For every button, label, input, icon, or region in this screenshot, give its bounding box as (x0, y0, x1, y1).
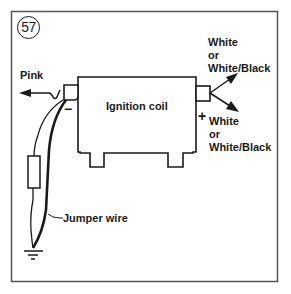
figure-number: 57 (17, 16, 40, 39)
ignition-coil-body (78, 77, 196, 167)
upper-wire-or: or (208, 48, 219, 62)
upper-right-wire (210, 79, 230, 93)
lower-right-wire (210, 93, 230, 106)
ignition-coil-label: Ignition coil (106, 99, 168, 113)
resistor-lead-lower (31, 188, 33, 248)
pink-wire-arrow-icon (19, 89, 31, 97)
lower-right-arrow-icon (226, 101, 239, 112)
upper-wire-color-1: White (208, 35, 238, 49)
ignition-coil-diagram: 57 Pink Ignition coil − + White or White… (0, 0, 291, 294)
ground-icon (24, 251, 43, 259)
lower-wire-color-2: White/Black (209, 140, 271, 154)
negative-terminal (64, 85, 78, 100)
pink-wire (30, 90, 60, 99)
lower-wire-or: or (209, 127, 220, 141)
upper-wire-color-2: White/Black (208, 61, 270, 75)
pink-wire-label: Pink (20, 68, 43, 82)
positive-sign: + (198, 108, 206, 124)
jumper-wire-label: Jumper wire (63, 211, 128, 225)
lower-wire-color-1: White (209, 114, 239, 128)
positive-terminal (196, 86, 210, 101)
resistor-icon (28, 156, 40, 188)
negative-sign: − (64, 101, 72, 117)
jumper-label-leader (48, 214, 63, 218)
